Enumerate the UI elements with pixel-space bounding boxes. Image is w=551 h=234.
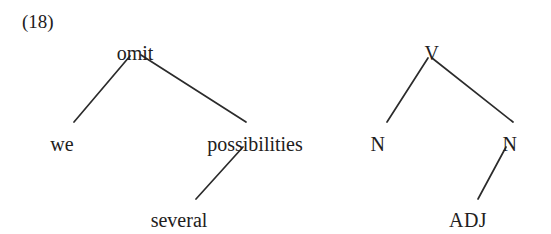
figure-root: (18) omitwepossibilitiesseveral VNNADJ [0, 0, 551, 234]
lexical-tree-edges [74, 55, 246, 199]
tree-node-omit: omit [117, 43, 154, 63]
tree-node-adj: ADJ [449, 210, 487, 230]
tree-node-n1: N [371, 134, 386, 154]
tree-node-we: we [50, 134, 73, 154]
tree-node-n2: N [503, 134, 518, 154]
tree-node-several: several [151, 210, 208, 230]
tree-node-v: V [425, 43, 440, 63]
tree-edge-V-N2 [432, 58, 513, 122]
tree-edge-omit-possibilities [141, 55, 246, 122]
category-tree-edges [387, 58, 513, 199]
tree-edges-layer [0, 0, 551, 234]
tree-edge-V-N1 [387, 58, 428, 122]
tree-node-possibilities: possibilities [207, 134, 303, 154]
example-number: (18) [22, 12, 54, 31]
tree-edge-omit-we [74, 56, 130, 122]
